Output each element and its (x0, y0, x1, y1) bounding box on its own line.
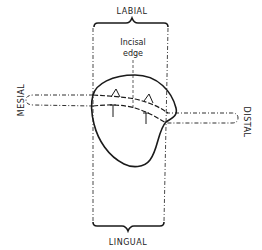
incisal-band-lower (93, 105, 166, 123)
mesial-label: MESIAL (17, 84, 26, 116)
incisal-band-upper (93, 95, 168, 113)
t-mark-2 (143, 113, 149, 124)
mesial-extension (26, 95, 93, 106)
tooth-outline (92, 75, 177, 167)
distal-label: DISTAL (242, 107, 251, 138)
tooth-orientation-diagram: LABIAL Incisal edge MESIAL DISTAL LINGUA… (0, 0, 262, 250)
t-mark-1 (110, 105, 116, 117)
mamelon-1 (111, 89, 120, 97)
lingual-label: LINGUAL (109, 238, 147, 247)
distal-extension (166, 113, 238, 123)
labial-label: LABIAL (117, 7, 148, 16)
incisal-edge-label-line1: Incisal (120, 38, 145, 47)
labial-brace (94, 18, 168, 27)
incisal-edge-label-line2: edge (123, 49, 143, 58)
lingual-brace (93, 222, 164, 231)
